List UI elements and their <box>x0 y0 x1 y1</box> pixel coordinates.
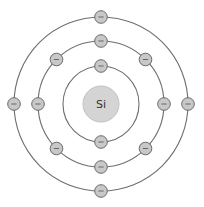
electron <box>50 142 63 155</box>
atom-diagram: Si <box>0 0 204 207</box>
electron <box>95 136 108 149</box>
electron <box>139 53 152 66</box>
element-symbol: Si <box>96 98 106 111</box>
electron <box>32 98 45 111</box>
electron <box>8 98 21 111</box>
electron <box>95 35 108 48</box>
electron <box>95 185 108 198</box>
electron <box>95 60 108 73</box>
electron <box>95 161 108 174</box>
electron <box>182 98 195 111</box>
electron <box>50 53 63 66</box>
electron <box>158 98 171 111</box>
electron <box>95 11 108 24</box>
nucleus: Si <box>83 86 119 122</box>
electron <box>139 142 152 155</box>
